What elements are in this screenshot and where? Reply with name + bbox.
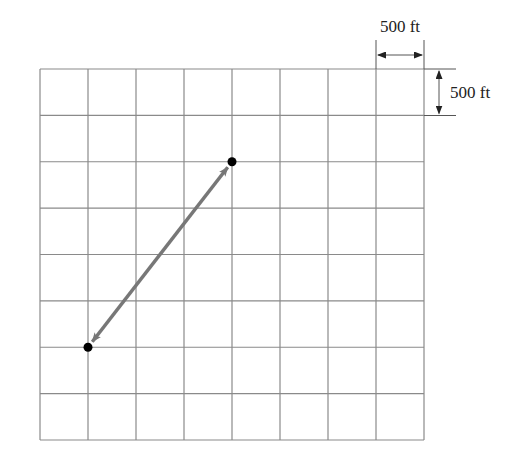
point-end <box>84 343 93 352</box>
horizontal-scale: 500 ft <box>376 17 424 69</box>
point-start <box>228 157 237 166</box>
grid <box>40 69 424 440</box>
vertical-scale-label: 500 ft <box>450 83 490 102</box>
vertical-scale: 500 ft <box>424 69 490 116</box>
grid-diagram: 500 ft 500 ft <box>0 0 532 470</box>
horizontal-scale-label: 500 ft <box>380 17 420 36</box>
